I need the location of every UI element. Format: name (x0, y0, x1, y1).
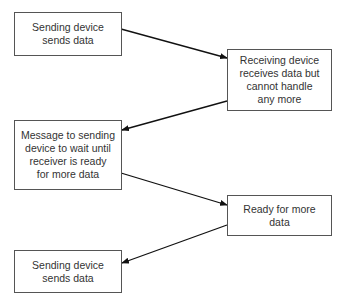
node-receiving-device-full: Receiving device receives data but canno… (227, 49, 332, 111)
node-label: Receiving device receives data but canno… (240, 54, 320, 106)
node-sending-device-sends-data-again: Sending device sends data (14, 250, 122, 293)
node-label: Sending device sends data (32, 259, 104, 285)
node-label: Ready for more data (243, 203, 315, 229)
arrow-n2-to-n3 (122, 101, 227, 130)
node-label: Message to sending device to wait until … (21, 129, 115, 181)
arrow-n3-to-n4 (121, 173, 227, 205)
arrow-n4-to-n5 (122, 225, 227, 263)
node-label: Sending device sends data (32, 21, 104, 47)
arrow-n1-to-n2 (121, 29, 227, 58)
node-wait-message: Message to sending device to wait until … (14, 120, 122, 190)
node-sending-device-sends-data: Sending device sends data (14, 12, 122, 56)
node-ready-for-more-data: Ready for more data (227, 195, 332, 236)
